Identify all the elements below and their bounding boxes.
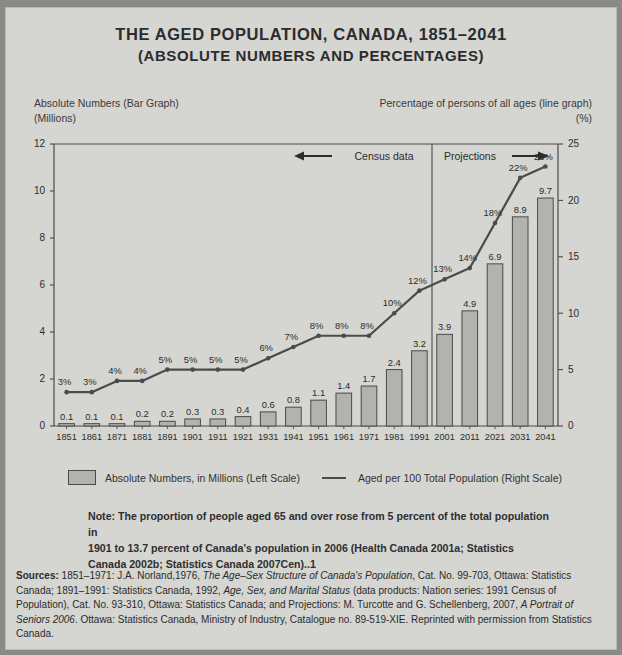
bar <box>59 424 75 426</box>
x-axis-tick-label: 1931 <box>258 432 278 442</box>
y-axis-left-tick-label: 10 <box>34 185 46 196</box>
bar <box>361 386 377 426</box>
bar-value-label: 0.1 <box>60 411 73 422</box>
line-point <box>543 164 548 169</box>
chart-note-line-2: 1901 to 13.7 percent of Canada's populat… <box>88 540 550 556</box>
sources-seg-1: 1851–1971: J.A. Norland,1976, <box>59 570 203 581</box>
line-value-label: 8% <box>310 320 324 331</box>
line-point <box>392 311 397 316</box>
x-axis-tick-label: 1951 <box>308 432 328 442</box>
line-point <box>64 390 69 395</box>
bar-value-label: 2.4 <box>388 357 401 368</box>
line-point <box>291 345 296 350</box>
figure-panel: THE AGED POPULATION, CANADA, 1851–2041 (… <box>6 8 616 649</box>
sources-label: Sources: <box>16 570 59 581</box>
bar <box>487 264 503 426</box>
line-value-label: 3% <box>58 376 72 387</box>
y-axis-right-tick-label: 15 <box>568 251 580 262</box>
x-axis-tick-label: 1851 <box>56 432 76 442</box>
x-axis-tick-label: 1901 <box>182 432 202 442</box>
y-axis-left-tick-label: 4 <box>39 326 45 337</box>
line-value-label: 3% <box>83 376 97 387</box>
x-axis-tick-label: 2041 <box>535 432 555 442</box>
bar-value-label: 0.3 <box>186 406 199 417</box>
bar <box>538 198 554 426</box>
line-point <box>115 379 120 384</box>
legend-bar-label: Absolute Numbers, in Millions (Left Scal… <box>105 472 300 484</box>
bar <box>286 407 302 426</box>
bar <box>437 334 453 426</box>
line-value-label: 5% <box>234 354 248 365</box>
projections-label: Projections <box>444 150 496 162</box>
chart-sources: Sources: 1851–1971: J.A. Norland,1976, T… <box>16 569 604 642</box>
line-point <box>417 288 422 293</box>
line-value-label: 13% <box>433 263 452 274</box>
bar-value-label: 0.4 <box>236 404 249 415</box>
y-axis-right-tick-label: 25 <box>568 138 580 149</box>
y-axis-left-tick-label: 12 <box>34 138 46 149</box>
bar-value-label: 9.7 <box>539 185 552 196</box>
census-data-label: Census data <box>355 150 414 162</box>
left-axis-caption: Absolute Numbers (Bar Graph) (Millions) <box>34 96 179 126</box>
line-value-label: 6% <box>259 342 273 353</box>
line-point <box>165 367 170 372</box>
x-axis-tick-label: 1941 <box>283 432 303 442</box>
bar <box>336 393 352 426</box>
x-axis-tick-label: 1981 <box>384 432 404 442</box>
y-axis-right-tick-label: 5 <box>568 364 574 375</box>
line-value-label: 12% <box>408 275 427 286</box>
line-point <box>342 333 347 338</box>
bar <box>386 370 402 426</box>
right-axis-caption-line-2: (%) <box>380 111 592 126</box>
bar <box>412 351 428 426</box>
x-axis-tick-label: 2001 <box>434 432 454 442</box>
line-point <box>140 379 145 384</box>
census-arrow-head-icon <box>294 152 304 161</box>
bar-value-label: 4.9 <box>463 298 476 309</box>
x-axis-tick-label: 2031 <box>510 432 530 442</box>
line-point <box>518 176 523 181</box>
line-point <box>367 333 372 338</box>
line-point <box>493 221 498 226</box>
chart-plot-area: 0246810120510152025185118611871188118911… <box>6 126 616 456</box>
bar-value-label: 1.4 <box>337 380 350 391</box>
line-value-label: 5% <box>159 354 173 365</box>
line-value-label: 18% <box>484 207 503 218</box>
line-value-label: 10% <box>383 297 402 308</box>
legend-line-swatch <box>322 477 346 479</box>
x-axis-tick-label: 1961 <box>334 432 354 442</box>
sources-seg-4: . Ottawa: Statistics Canada, Ministry of… <box>16 614 592 640</box>
right-axis-caption-line-1: Percentage of persons of all ages (line … <box>380 96 592 111</box>
line-value-label: 5% <box>209 354 223 365</box>
bar-value-label: 0.1 <box>110 411 123 422</box>
right-axis-caption: Percentage of persons of all ages (line … <box>380 96 592 126</box>
bar <box>84 424 100 426</box>
y-axis-left-tick-label: 8 <box>39 232 45 243</box>
left-axis-caption-line-1: Absolute Numbers (Bar Graph) <box>34 96 179 111</box>
line-value-label: 8% <box>335 320 349 331</box>
x-axis-tick-label: 2021 <box>485 432 505 442</box>
line-point <box>241 367 246 372</box>
line-value-label: 4% <box>133 365 147 376</box>
y-axis-left-tick-label: 0 <box>39 420 45 431</box>
x-axis-tick-label: 1971 <box>359 432 379 442</box>
chart-title-line-1: THE AGED POPULATION, CANADA, 1851–2041 <box>6 24 616 46</box>
chart-note: Note: The proportion of people aged 65 a… <box>88 508 550 572</box>
x-axis-tick-label: 2011 <box>460 432 480 442</box>
chart-title: THE AGED POPULATION, CANADA, 1851–2041 (… <box>6 8 616 66</box>
legend-line-label: Aged per 100 Total Population (Right Sca… <box>358 472 562 484</box>
sources-italic-2: Age, Sex, and Marital Status <box>223 585 350 596</box>
line-value-label: 7% <box>285 331 299 342</box>
left-axis-caption-line-2: (Millions) <box>34 111 179 126</box>
bar-value-label: 0.6 <box>262 399 275 410</box>
y-axis-right-tick-label: 20 <box>568 195 580 206</box>
x-axis-tick-label: 1911 <box>208 432 228 442</box>
bar <box>160 421 176 426</box>
line-series: 3%3%4%4%5%5%5%5%6%7%8%8%8%10%12%13%14%18… <box>58 151 553 395</box>
legend-bar-swatch <box>68 470 96 485</box>
bar-value-label: 0.8 <box>287 394 300 405</box>
x-axis-tick-label: 1881 <box>132 432 152 442</box>
x-axis-tick-label: 1991 <box>409 432 429 442</box>
bar <box>109 424 125 426</box>
line-point <box>442 277 447 282</box>
